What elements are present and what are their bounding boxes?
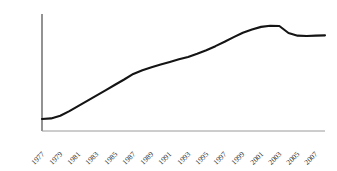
x-tick-label: 1977 xyxy=(30,150,46,166)
x-tick-label: 1995 xyxy=(194,150,210,166)
x-tick-label: 1991 xyxy=(157,150,173,166)
x-tick-label: 1999 xyxy=(230,150,246,166)
x-tick-label: 1987 xyxy=(121,150,137,166)
x-tick-label: 1981 xyxy=(66,150,82,166)
x-axis-tick-labels: 1977197919811983198519871989199119931995… xyxy=(0,0,337,171)
x-tick-label: 1983 xyxy=(84,150,100,166)
x-tick-label: 1985 xyxy=(103,150,119,166)
x-tick-label: 1997 xyxy=(212,150,228,166)
x-tick-label: 2007 xyxy=(303,150,319,166)
x-tick-label: 1989 xyxy=(139,150,155,166)
x-tick-label: 2001 xyxy=(249,150,265,166)
x-tick-label: 1979 xyxy=(48,150,64,166)
x-tick-label: 2005 xyxy=(285,150,301,166)
line-chart: 05001000150020002500300035004000 1977197… xyxy=(0,0,337,171)
x-tick-label: 2003 xyxy=(267,150,283,166)
x-tick-label: 1993 xyxy=(176,150,192,166)
